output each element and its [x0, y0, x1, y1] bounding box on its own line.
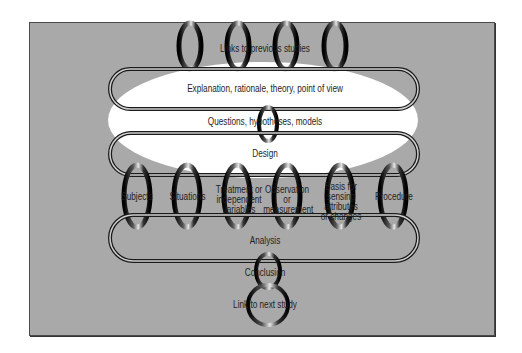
component-treatment: Treatment or independent variables — [215, 185, 263, 215]
analysis-label: Analysis — [240, 236, 289, 246]
links-to-previous-label: Links to previous studies — [212, 44, 319, 54]
component-situations: Situations — [165, 192, 210, 202]
design-label: Design — [240, 149, 289, 159]
conclusion-label: Conclusion — [236, 268, 293, 278]
component-basis: Basis for sensing attributes or changes — [321, 182, 362, 222]
component-subjects: Subjects — [117, 192, 158, 202]
link-next-label: Link to next study — [228, 300, 302, 310]
explanation-label: Explanation, rationale, theory, point of… — [163, 84, 368, 94]
questions-label: Questions, hypotheses, models — [195, 117, 334, 127]
component-observation: Observation or measurement — [263, 185, 311, 215]
component-procedure: Procedure — [373, 192, 416, 202]
